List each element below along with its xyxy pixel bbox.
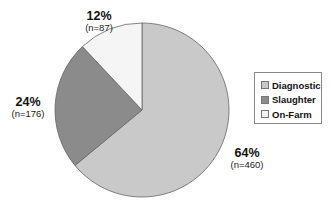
label-slaughter-pct: 24%: [2, 96, 54, 109]
label-on-farm: 12% (n=87): [74, 10, 124, 32]
legend-item-on-farm: On-Farm: [261, 107, 321, 122]
legend-item-slaughter: Slaughter: [261, 93, 321, 108]
legend-swatch-on-farm: [261, 110, 269, 118]
legend-swatch-diagnostic: [261, 81, 269, 89]
label-diagnostic-pct: 64%: [222, 147, 272, 160]
label-slaughter-count: (n=176): [2, 109, 54, 119]
legend-label-diagnostic: Diagnostic: [272, 80, 321, 91]
legend-swatch-slaughter: [261, 96, 269, 104]
label-slaughter: 24% (n=176): [2, 96, 54, 118]
legend-label-on-farm: On-Farm: [272, 109, 312, 120]
legend-label-slaughter: Slaughter: [272, 94, 316, 105]
legend: Diagnostic Slaughter On-Farm: [254, 72, 322, 124]
label-on-farm-count: (n=87): [74, 23, 124, 33]
label-diagnostic: 64% (n=460): [222, 147, 272, 169]
legend-item-diagnostic: Diagnostic: [261, 78, 321, 93]
label-on-farm-pct: 12%: [74, 10, 124, 23]
label-diagnostic-count: (n=460): [222, 160, 272, 170]
